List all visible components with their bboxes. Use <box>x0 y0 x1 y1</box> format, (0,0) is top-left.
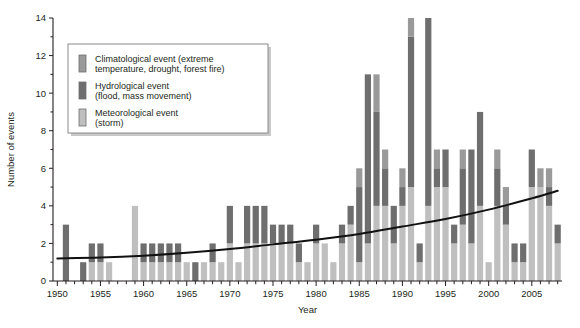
bar-segment-hydrological <box>391 206 397 244</box>
legend-label: Hydrological event <box>95 81 170 91</box>
bar-segment-meteorological <box>494 206 500 281</box>
bar-segment-hydrological <box>468 150 474 244</box>
bar-segment-meteorological <box>391 243 397 281</box>
bar-segment-hydrological <box>261 206 267 244</box>
bar-column <box>210 243 216 281</box>
bar-column <box>546 168 552 281</box>
bar-segment-meteorological <box>451 243 457 281</box>
bar-segment-hydrological <box>89 243 95 262</box>
bar-segment-hydrological <box>365 74 371 243</box>
bar-column <box>192 262 198 281</box>
bar-segment-meteorological <box>244 243 250 281</box>
bar-segment-meteorological <box>270 243 276 281</box>
bar-segment-meteorological <box>166 262 172 281</box>
bar-segment-meteorological <box>253 243 259 281</box>
y-tick-label: 4 <box>41 200 46 211</box>
bar-segment-hydrological <box>270 225 276 244</box>
legend-item-climatological[interactable]: Climatological event (extremetemperature… <box>95 54 225 74</box>
bar-column <box>373 74 379 281</box>
bar-segment-meteorological <box>175 262 181 281</box>
bar-segment-meteorological <box>279 243 285 281</box>
bar-segment-meteorological <box>235 262 241 281</box>
bar-segment-climatological <box>373 74 379 112</box>
bar-segment-hydrological <box>425 18 431 206</box>
bar-column <box>97 243 103 281</box>
bar-column <box>132 206 138 281</box>
bar-segment-meteorological <box>261 243 267 281</box>
bar-segment-climatological <box>494 150 500 169</box>
bar-column <box>339 225 345 281</box>
bar-column <box>184 262 190 281</box>
bar-segment-hydrological <box>140 243 146 262</box>
bar-segment-hydrological <box>546 187 552 206</box>
chart-figure: 0246810121419501955196019651970197519801… <box>0 0 580 328</box>
bar-column <box>149 243 155 281</box>
bar-segment-hydrological <box>253 206 259 244</box>
bar-segment-climatological <box>434 150 440 169</box>
chart-canvas: 0246810121419501955196019651970197519801… <box>0 0 580 328</box>
bar-segment-meteorological <box>97 262 103 281</box>
bar-segment-hydrological <box>287 225 293 244</box>
bar-column <box>434 150 440 282</box>
bar-column <box>63 225 69 281</box>
bar-segment-climatological <box>382 150 388 169</box>
bar-column <box>218 262 224 281</box>
x-tick-label: 1990 <box>392 288 413 299</box>
bar-column <box>270 225 276 281</box>
bar-segment-hydrological <box>210 243 216 262</box>
x-tick-label: 2000 <box>478 288 499 299</box>
bar-column <box>227 206 233 281</box>
bar-column <box>529 150 535 282</box>
bar-segment-hydrological <box>503 206 509 225</box>
bar-column <box>391 206 397 281</box>
bar-segment-hydrological <box>80 262 86 281</box>
bar-column <box>313 225 319 281</box>
legend-label: (flood, mass movement) <box>95 91 192 101</box>
bar-column <box>296 243 302 281</box>
bar-segment-meteorological <box>486 262 492 281</box>
bar-segment-hydrological <box>296 243 302 262</box>
bar-segment-meteorological <box>339 243 345 281</box>
bar-segment-meteorological <box>330 262 336 281</box>
bar-segment-meteorological <box>322 243 328 281</box>
x-tick-label: 1995 <box>435 288 456 299</box>
bar-segment-hydrological <box>373 112 379 206</box>
bar-column <box>322 243 328 281</box>
bar-column <box>468 150 474 282</box>
bar-segment-hydrological <box>382 168 388 206</box>
bar-segment-meteorological <box>140 262 146 281</box>
bar-column <box>486 262 492 281</box>
bar-segment-meteorological <box>442 187 448 281</box>
x-tick-label: 1955 <box>90 288 111 299</box>
y-tick-label: 2 <box>41 238 46 249</box>
x-tick-label: 1960 <box>133 288 154 299</box>
bar-segment-meteorological <box>373 206 379 281</box>
y-axis-title: Number of events <box>5 112 16 187</box>
bar-column <box>477 112 483 281</box>
bar-column <box>244 206 250 281</box>
bar-segment-hydrological <box>192 262 198 281</box>
bar-segment-climatological <box>356 168 362 187</box>
legend-label: Meteorological event <box>95 108 179 118</box>
bar-segment-hydrological <box>417 243 423 262</box>
bar-segment-meteorological <box>132 206 138 281</box>
bar-column <box>304 262 310 281</box>
bar-column <box>348 206 354 281</box>
bar-column <box>279 225 285 281</box>
bar-segment-hydrological <box>244 206 250 244</box>
bar-segment-hydrological <box>166 243 172 262</box>
bar-column <box>175 243 181 281</box>
bar-column <box>330 262 336 281</box>
bar-segment-meteorological <box>218 262 224 281</box>
bar-segment-meteorological <box>537 187 543 281</box>
bar-column <box>408 18 414 281</box>
bar-column <box>520 243 526 281</box>
bar-segment-meteorological <box>399 206 405 281</box>
bar-segment-meteorological <box>210 262 216 281</box>
bar-segment-hydrological <box>227 206 233 244</box>
bar-segment-meteorological <box>382 206 388 281</box>
bar-column <box>503 187 509 281</box>
bar-column <box>201 262 207 281</box>
legend-label: (storm) <box>95 118 124 128</box>
bar-segment-climatological <box>546 168 552 187</box>
